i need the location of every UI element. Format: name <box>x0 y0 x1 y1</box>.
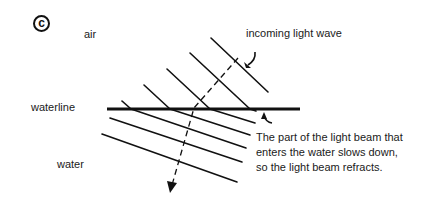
wavefront-air-3 <box>167 69 210 109</box>
beam-arrowhead <box>167 181 177 193</box>
incoming-pointer-arrow <box>248 52 255 65</box>
wavefront-water-5 <box>102 134 237 182</box>
wavefront-air-4 <box>144 85 170 109</box>
light-beam-path <box>172 58 238 185</box>
refraction-diagram <box>0 0 428 206</box>
caption-pointer-arrowhead <box>261 112 267 119</box>
wavefront-air-1 <box>211 38 268 92</box>
refracted-wavefronts <box>102 109 256 182</box>
incoming-wavefronts <box>122 38 268 109</box>
wavefront-air-2 <box>190 53 250 109</box>
wavefront-water-1 <box>210 109 255 123</box>
wavefront-water-2 <box>170 109 250 135</box>
